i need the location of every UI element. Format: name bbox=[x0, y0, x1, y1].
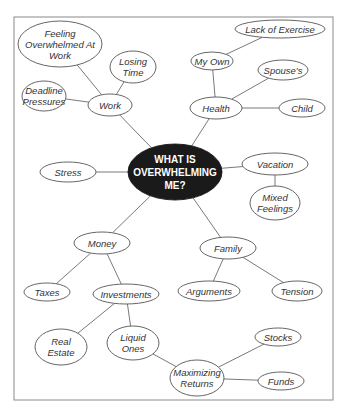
node-label: Work bbox=[99, 100, 122, 111]
node-family: Family bbox=[200, 237, 256, 259]
node-vacation: Vacation bbox=[242, 153, 308, 175]
node-label: Work bbox=[49, 50, 72, 61]
node-label: Child bbox=[291, 103, 313, 114]
node-arguments: Arguments bbox=[178, 281, 240, 301]
node-label: Estate bbox=[48, 347, 75, 358]
node-label: Investments bbox=[100, 289, 151, 300]
node-label: ME? bbox=[164, 180, 185, 191]
node-my-own: My Own bbox=[191, 52, 233, 70]
node-label: Ones bbox=[122, 343, 145, 354]
node-money: Money bbox=[74, 232, 130, 254]
node-label: Taxes bbox=[35, 287, 60, 298]
node-label: Feeling bbox=[44, 28, 76, 39]
node-real-estate: RealEstate bbox=[35, 329, 87, 365]
node-label: Funds bbox=[268, 376, 295, 387]
node-label: Family bbox=[214, 243, 243, 254]
node-label: Returns bbox=[180, 378, 214, 389]
node-work: Work bbox=[88, 94, 132, 116]
central-topic-node: WHAT ISOVERWHELMINGME? bbox=[128, 144, 222, 200]
node-maximizing-returns: MaximizingReturns bbox=[170, 360, 224, 396]
node-label: Spouse's bbox=[264, 65, 303, 76]
node-label: Deadline bbox=[25, 85, 63, 96]
node-label: Tension bbox=[281, 286, 314, 297]
node-label: Stocks bbox=[264, 332, 293, 343]
node-label: Arguments bbox=[185, 286, 232, 297]
node-label: Money bbox=[88, 238, 118, 249]
node-stress: Stress bbox=[40, 162, 96, 182]
node-losing-time: LosingTime bbox=[110, 51, 156, 83]
node-label: WHAT IS bbox=[154, 154, 196, 165]
node-label: Time bbox=[122, 67, 143, 78]
node-label: Stress bbox=[55, 167, 82, 178]
node-lack-of-exercise: Lack of Exercise bbox=[235, 20, 325, 38]
node-taxes: Taxes bbox=[24, 283, 70, 301]
node-label: OVERWHELMING bbox=[133, 167, 217, 178]
node-spouses: Spouse's bbox=[258, 60, 308, 80]
node-mixed-feelings: MixedFeelings bbox=[250, 186, 300, 220]
mind-map-canvas: WHAT ISOVERWHELMINGME?WorkFeelingOverwhe… bbox=[0, 0, 347, 417]
node-label: Liquid bbox=[120, 332, 146, 343]
node-label: Maximizing bbox=[173, 367, 221, 378]
node-label: Health bbox=[202, 103, 229, 114]
node-label: Real bbox=[51, 336, 71, 347]
node-label: Losing bbox=[119, 56, 148, 67]
node-child: Child bbox=[279, 99, 325, 117]
node-feeling-overwhelmed: FeelingOverwhelmed AtWork bbox=[18, 21, 102, 67]
node-label: My Own bbox=[195, 56, 230, 67]
node-label: Vacation bbox=[257, 159, 294, 170]
node-label: Lack of Exercise bbox=[245, 24, 315, 35]
node-label: Mixed bbox=[262, 192, 288, 203]
node-label: Pressures bbox=[23, 96, 66, 107]
node-health: Health bbox=[190, 97, 242, 119]
node-investments: Investments bbox=[93, 284, 159, 304]
node-deadline-pressures: DeadlinePressures bbox=[22, 81, 66, 111]
node-stocks: Stocks bbox=[255, 328, 301, 346]
node-label: Feelings bbox=[257, 203, 293, 214]
node-liquid-ones: LiquidOnes bbox=[107, 326, 159, 360]
node-label: Overwhelmed At bbox=[25, 39, 95, 50]
node-tension: Tension bbox=[272, 281, 322, 301]
node-funds: Funds bbox=[258, 372, 304, 390]
